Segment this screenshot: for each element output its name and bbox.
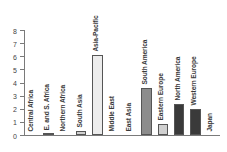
y-tick-mark: 0 [20, 135, 24, 136]
y-tick-label: 8 [13, 27, 17, 34]
category-label: Middle East [110, 96, 117, 132]
y-tick-label: 0 [13, 132, 17, 139]
category-label: South Asia [77, 95, 84, 128]
category-label: East Asia [126, 103, 133, 132]
bar-chart: 012345678 Central AfricaE. and S. Africa… [0, 0, 227, 152]
bar [141, 88, 151, 135]
bar [43, 133, 53, 135]
y-tick-label: 4 [13, 80, 17, 87]
category-label: Asia-Pacific [94, 16, 101, 52]
category-label: North America [175, 57, 182, 101]
category-label: Northern Africa [61, 85, 68, 132]
category-label: Japan [208, 113, 215, 132]
category-label: South America [143, 40, 150, 85]
category-label: Western Europe [192, 57, 199, 106]
plot-area: Central AfricaE. and S. AfricaNorthern A… [24, 30, 220, 135]
bar [158, 124, 168, 135]
y-tick-label: 6 [13, 53, 17, 60]
bar [76, 131, 86, 135]
y-tick-label: 3 [13, 93, 17, 100]
y-tick-label: 1 [13, 119, 17, 126]
y-tick-label: 5 [13, 66, 17, 73]
category-label: Central Africa [28, 90, 35, 132]
x-axis-line [24, 135, 220, 136]
y-tick-label: 2 [13, 106, 17, 113]
bar [92, 55, 102, 135]
category-label: E. and S. Africa [45, 84, 52, 131]
bar [174, 104, 184, 136]
category-label: Eastern Europe [159, 74, 166, 121]
bar [190, 109, 200, 135]
y-tick-label: 7 [13, 40, 17, 47]
